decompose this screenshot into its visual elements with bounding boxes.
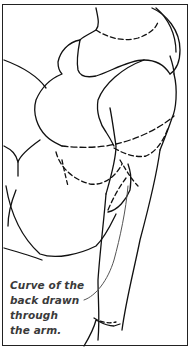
forearm-inner	[98, 194, 106, 340]
caption-line-4: the arm.	[10, 323, 84, 338]
arm-dashed-through	[108, 178, 126, 210]
caption-line-3: through	[10, 308, 84, 323]
shoulder-outer-2	[156, 8, 176, 52]
armpit-crease	[106, 108, 116, 194]
forearm-outer	[122, 150, 160, 330]
caption-line-2: back drawn	[10, 293, 84, 308]
caption: Curve of the back drawn through the arm.	[10, 278, 84, 338]
torso-side	[6, 186, 116, 256]
upper-arm-outline	[160, 74, 176, 150]
neck-contour	[77, 8, 170, 77]
left-arm-upper	[4, 60, 46, 88]
left-arm-lower	[4, 140, 40, 162]
collar-dashed	[96, 22, 158, 40]
back-curve-dashed	[56, 152, 122, 184]
forearm-dashed	[94, 318, 116, 323]
shoulder-outer	[152, 8, 180, 74]
chest-dashed	[62, 116, 174, 147]
caption-line-1: Curve of the	[10, 278, 84, 293]
chest-contour	[35, 40, 80, 146]
